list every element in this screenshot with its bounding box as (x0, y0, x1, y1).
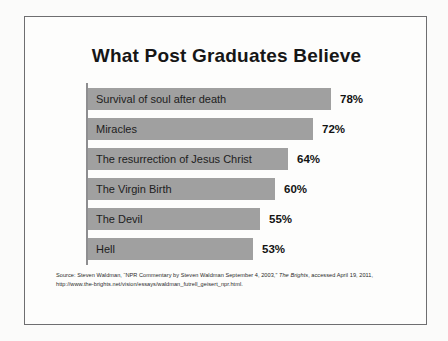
bar-value-label: 72% (322, 118, 345, 140)
bar-value-label: 60% (284, 178, 307, 200)
bar-value-label: 53% (262, 238, 285, 260)
source-citation: Source: Steven Waldman, “NPR Commentary … (56, 271, 406, 289)
bar-category-label: Survival of soul after death (96, 88, 226, 110)
bar-value-label: 64% (297, 148, 320, 170)
slide-frame: What Post Graduates Believe Survival of … (24, 16, 427, 325)
scanned-page-background: What Post Graduates Believe Survival of … (0, 0, 448, 341)
bar-value-label: 78% (340, 88, 363, 110)
bar-category-label: The Virgin Birth (96, 178, 172, 200)
source-citation-prefix: Source: Steven Waldman, “NPR Commentary … (56, 272, 279, 278)
bar-category-label: Hell (96, 238, 115, 260)
bar-category-label: The resurrection of Jesus Christ (96, 148, 252, 170)
bar-category-label: The Devil (96, 208, 142, 230)
source-citation-publication: The Brights (279, 272, 308, 278)
bar-value-label: 55% (269, 208, 292, 230)
bar-category-label: Miracles (96, 118, 137, 140)
bar-chart: Survival of soul after death78%Miracles7… (86, 83, 406, 265)
page-title: What Post Graduates Believe (25, 45, 428, 67)
